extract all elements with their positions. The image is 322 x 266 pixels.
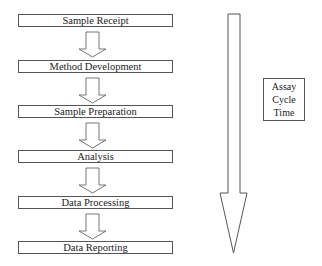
side-label-line: Assay xyxy=(264,80,304,93)
down-arrow-icon xyxy=(79,32,106,57)
assay-cycle-time-label: Assay Cycle Time xyxy=(263,78,305,121)
down-arrow-icon xyxy=(79,123,106,148)
down-arrow-icon xyxy=(79,78,106,103)
step-sample-receipt: Sample Receipt xyxy=(18,14,173,27)
step-analysis: Analysis xyxy=(18,150,173,163)
down-arrow-icon xyxy=(79,214,106,239)
side-label-line: Time xyxy=(264,106,304,119)
step-data-reporting: Data Reporting xyxy=(18,241,173,254)
cycle-time-arrow-icon xyxy=(220,14,247,253)
down-arrow-icon xyxy=(79,168,106,193)
step-sample-preparation: Sample Preparation xyxy=(18,105,173,118)
arrows-layer xyxy=(0,0,322,266)
side-label-line: Cycle xyxy=(264,93,304,106)
step-method-development: Method Development xyxy=(18,60,173,73)
step-data-processing: Data Processing xyxy=(18,196,173,209)
